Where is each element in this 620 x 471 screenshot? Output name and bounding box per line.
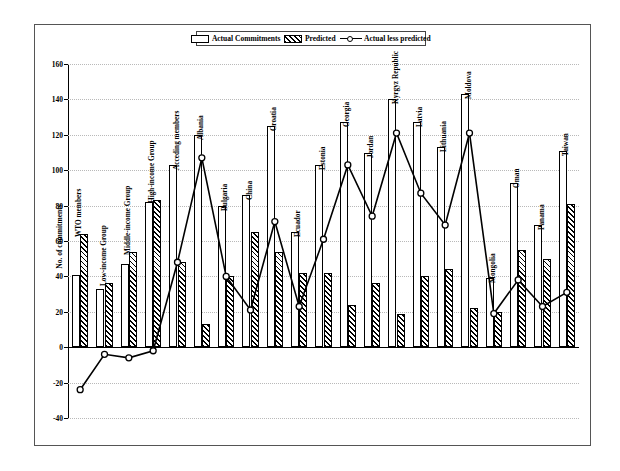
y-tick-label: 60 xyxy=(56,237,64,246)
y-tick-label: 80 xyxy=(56,201,64,210)
y-tick-label: 20 xyxy=(56,307,64,316)
x-axis-label: Moldova xyxy=(464,72,473,100)
x-axis-label: China xyxy=(245,181,254,200)
line-series-layer xyxy=(68,64,579,418)
x-axis-label: Ecuador xyxy=(293,210,302,237)
x-axis-label: Taiwan xyxy=(561,133,570,156)
y-tick-label: -20 xyxy=(53,378,63,387)
chart-legend: Actual Commitments Predicted Actual less… xyxy=(196,31,426,46)
x-axis-label: Middle-income Group xyxy=(123,185,132,254)
y-tick-label: 40 xyxy=(56,272,64,281)
line-marker xyxy=(345,162,351,168)
line-marker xyxy=(369,213,375,219)
y-tick-label: 0 xyxy=(59,343,63,352)
chart-screenshot: Actual Commitments Predicted Actual less… xyxy=(0,0,620,471)
y-tick-label: 120 xyxy=(52,130,63,139)
line-marker xyxy=(199,155,205,161)
gridline xyxy=(68,418,579,419)
legend-label-predicted: Predicted xyxy=(305,34,336,43)
legend-item-actual-commitments: Actual Commitments xyxy=(191,34,280,43)
line-marker xyxy=(467,130,473,136)
x-axis-label: Lithuania xyxy=(439,121,448,152)
line-marker xyxy=(394,130,400,136)
line-marker xyxy=(272,219,278,225)
legend-item-actual-less-predicted: Actual less predicted xyxy=(340,34,431,43)
line-marker xyxy=(491,311,497,317)
legend-label-actual-less-predicted: Actual less predicted xyxy=(364,34,431,43)
x-axis-label: WTO members xyxy=(74,189,83,237)
x-axis-label: Georgia xyxy=(342,102,351,127)
line-circle-icon xyxy=(340,35,362,43)
x-axis-label: Panama xyxy=(537,205,546,231)
y-tick-label: -40 xyxy=(53,414,63,423)
line-marker xyxy=(418,190,424,196)
x-axis-label: High-income Group xyxy=(147,141,156,204)
y-tick-label: 160 xyxy=(52,60,63,69)
line-marker xyxy=(442,222,448,228)
y-tick-label: 100 xyxy=(52,166,63,175)
line-marker xyxy=(540,303,546,309)
y-tick-label: 140 xyxy=(52,95,63,104)
x-axis-label: Oman xyxy=(512,168,521,187)
line-marker xyxy=(296,303,302,309)
line-marker xyxy=(564,289,570,295)
line-marker xyxy=(223,273,229,279)
x-axis-label: Bulgaria xyxy=(220,183,229,210)
x-axis-label: Croatia xyxy=(269,107,278,131)
open-box-icon xyxy=(191,35,209,43)
line-marker xyxy=(77,387,83,393)
x-axis-label: Kyrgyz Republic xyxy=(391,51,400,104)
line-marker xyxy=(515,277,521,283)
legend-item-predicted: Predicted xyxy=(284,34,335,43)
x-axis-label: Acceding members xyxy=(172,111,181,170)
x-axis-label: Jordan xyxy=(366,135,375,157)
x-axis-label: Albania xyxy=(196,115,205,140)
line-marker xyxy=(175,259,181,265)
y-tick-mark xyxy=(64,418,68,419)
legend-label-actual-commitments: Actual Commitments xyxy=(212,34,281,43)
line-marker xyxy=(102,351,108,357)
plot-area: -40-20020406080100120140160 WTO membersL… xyxy=(68,64,579,418)
x-axis-label: Low-income Group xyxy=(99,226,108,287)
line-marker xyxy=(321,236,327,242)
line-marker xyxy=(150,348,156,354)
x-axis-label: Mongolia xyxy=(488,254,497,284)
line-marker xyxy=(126,355,132,361)
line-marker xyxy=(248,307,254,313)
x-axis-label: Latvia xyxy=(415,107,424,127)
hatched-box-icon xyxy=(284,35,302,43)
x-axis-label: Estonia xyxy=(318,146,327,170)
